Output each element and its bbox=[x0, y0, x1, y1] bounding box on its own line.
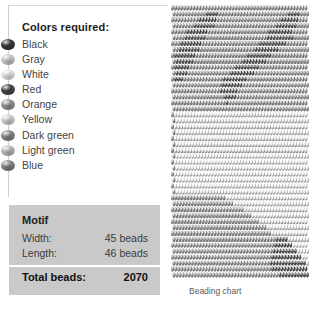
bead-cell bbox=[286, 243, 289, 248]
bead-cell bbox=[236, 201, 239, 206]
bead-cell bbox=[236, 23, 239, 28]
bead-cell bbox=[257, 59, 260, 64]
bead-cell bbox=[300, 59, 303, 64]
bead-cell bbox=[304, 100, 307, 105]
bead-cell bbox=[273, 82, 276, 87]
bead-cell bbox=[304, 17, 307, 22]
bead-cell bbox=[257, 225, 260, 230]
bead-cell bbox=[236, 71, 239, 76]
bead-cell bbox=[297, 47, 300, 52]
bead-cell bbox=[229, 171, 232, 176]
bead-cell bbox=[207, 17, 210, 22]
bead-cell bbox=[209, 177, 212, 182]
bead-cell bbox=[277, 255, 280, 260]
bead-cell bbox=[233, 154, 236, 159]
bead-cell bbox=[185, 142, 188, 147]
bead-cell bbox=[209, 82, 212, 87]
bead-cell bbox=[267, 260, 270, 265]
bead-cell bbox=[212, 272, 215, 277]
bead-cell bbox=[206, 11, 209, 16]
bead-cell bbox=[235, 207, 238, 212]
bead-cell bbox=[292, 171, 295, 176]
bead-cell bbox=[277, 29, 280, 34]
bead-cell bbox=[195, 183, 198, 188]
bead-cell bbox=[174, 160, 177, 165]
bead-cell bbox=[297, 11, 300, 16]
bead-cell bbox=[242, 71, 245, 76]
bead-cell bbox=[209, 225, 212, 230]
legend-title: Colors required: bbox=[22, 21, 109, 33]
bead-cell bbox=[262, 231, 265, 236]
bead-cell bbox=[289, 53, 292, 58]
bead-cell bbox=[171, 100, 174, 105]
bead-cell bbox=[171, 65, 174, 70]
bead-cell bbox=[210, 266, 213, 271]
bead-cell bbox=[262, 195, 265, 200]
bead-cell bbox=[204, 160, 207, 165]
bead-cell bbox=[188, 106, 191, 111]
bead-cell bbox=[262, 29, 265, 34]
bead-cell bbox=[177, 136, 180, 141]
bead-cell bbox=[250, 17, 253, 22]
bead-cell bbox=[257, 11, 260, 16]
bead-cell bbox=[286, 17, 289, 22]
bead-cell bbox=[203, 59, 206, 64]
bead-cell bbox=[209, 59, 212, 64]
bead-cell bbox=[286, 160, 289, 165]
bead-cell bbox=[256, 88, 259, 93]
bead-cell bbox=[238, 195, 241, 200]
bead-cell bbox=[177, 53, 180, 58]
bead-cell bbox=[229, 53, 232, 58]
bead-cell bbox=[232, 5, 235, 10]
bead-cell bbox=[264, 59, 267, 64]
bead-cell bbox=[174, 100, 177, 105]
bead-cell bbox=[257, 71, 260, 76]
bead-cell bbox=[245, 154, 248, 159]
bead-cell bbox=[206, 71, 209, 76]
bead-cell bbox=[171, 255, 174, 260]
legend-panel: Colors required: BlackGrayWhiteRedOrange… bbox=[0, 0, 168, 310]
bead-cell bbox=[264, 177, 267, 182]
bead-cell bbox=[294, 260, 297, 265]
bead-cell bbox=[180, 5, 183, 10]
bead-cell bbox=[204, 243, 207, 248]
bead-cell bbox=[182, 213, 185, 218]
bead-cell bbox=[300, 11, 303, 16]
bead-cell bbox=[276, 23, 279, 28]
bead-cell bbox=[279, 213, 282, 218]
bead-cell bbox=[223, 255, 226, 260]
bead-cell bbox=[295, 88, 298, 93]
bead-cell bbox=[239, 11, 242, 16]
bead-cell bbox=[182, 130, 185, 135]
bead-cell bbox=[264, 154, 267, 159]
bead-cell bbox=[220, 65, 223, 70]
bead-cell bbox=[250, 112, 253, 117]
bead-cell bbox=[206, 260, 209, 265]
bead-cell bbox=[251, 213, 254, 218]
bead-cell bbox=[200, 142, 203, 147]
bead-cell bbox=[304, 76, 307, 81]
bead-cell bbox=[239, 59, 242, 64]
bead-cell bbox=[251, 201, 254, 206]
bead-cell bbox=[262, 136, 265, 141]
bead-cell bbox=[215, 35, 218, 40]
bead-cell bbox=[267, 249, 270, 254]
bead-cell bbox=[229, 195, 232, 200]
bead-cell bbox=[224, 142, 227, 147]
bead-cell bbox=[301, 207, 304, 212]
bead-cell bbox=[185, 94, 188, 99]
bead-cell bbox=[224, 47, 227, 52]
bead-cell bbox=[254, 272, 257, 277]
bead-cell bbox=[304, 171, 307, 176]
bead-cell bbox=[182, 201, 185, 206]
bead-cell bbox=[209, 272, 212, 277]
bead-cell bbox=[248, 82, 251, 87]
bead-cell bbox=[297, 71, 300, 76]
bead-cell bbox=[223, 160, 226, 165]
bead-cell bbox=[306, 225, 309, 230]
bead-cell bbox=[200, 225, 203, 230]
bead-cell bbox=[212, 130, 215, 135]
bead-cell bbox=[242, 189, 245, 194]
bead-cell bbox=[248, 201, 251, 206]
bead-cell bbox=[282, 118, 285, 123]
